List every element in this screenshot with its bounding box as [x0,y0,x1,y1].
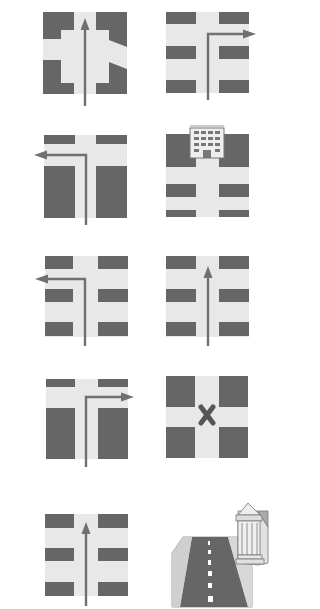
straight-grid-map-icon [166,256,249,337]
tile-right-turn-t-junction [46,379,128,459]
tile-right-turn-grid [166,12,249,93]
tile-destination-building [166,126,249,217]
office-building-map-icon [166,126,249,217]
tile-straight-grid [166,256,249,337]
tile-straight-junction [43,12,127,94]
x-mark-map-icon [166,376,248,458]
left-turn-map-icon [44,135,127,218]
straight-grid-map-icon-2 [45,514,128,596]
tile-left-turn-grid [45,256,128,337]
left-turn-grid-map-icon [45,256,128,337]
tile-crossroads-x [166,376,248,458]
tile-perspective-road-building [170,503,281,608]
junction-map-icon [43,12,127,94]
right-turn-t-map-icon [46,379,128,459]
building-icon [190,126,224,158]
road-to-building-icon [170,503,281,608]
columned-building-icon [236,503,268,565]
right-turn-map-icon [166,12,249,93]
tile-left-turn-t-junction [44,135,127,218]
tile-straight-grid-2 [45,514,128,596]
